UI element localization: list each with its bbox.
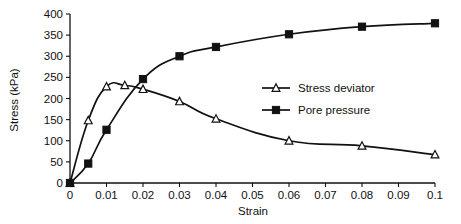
y-tick-label: 50: [50, 156, 63, 168]
marker-square: [285, 31, 292, 38]
x-tick-label: 0: [67, 189, 73, 201]
x-tick-label: 0.1: [427, 189, 443, 201]
y-tick-label: 250: [44, 71, 63, 83]
series-2: [66, 20, 438, 187]
x-tick-label: 0.01: [95, 189, 117, 201]
y-tick-group: 050100150200250300350400: [44, 8, 70, 189]
series-line: [70, 23, 435, 183]
chart-legend: Stress deviatorPore pressure: [262, 82, 375, 116]
x-axis-title: Strain: [238, 205, 268, 217]
marker-triangle: [84, 116, 92, 123]
marker-square: [358, 23, 365, 30]
y-tick-label: 300: [44, 50, 63, 62]
marker-square: [212, 43, 219, 50]
series-1: [66, 81, 439, 186]
x-tick-label: 0.08: [351, 189, 373, 201]
x-axis: 00.010.020.030.040.050.060.070.080.090.1: [67, 183, 443, 201]
x-tick-group: 00.010.020.030.040.050.060.070.080.090.1: [67, 183, 443, 201]
marker-square: [66, 179, 73, 186]
marker-square: [431, 20, 438, 27]
y-tick-label: 350: [44, 29, 63, 41]
legend-label: Stress deviator: [298, 82, 375, 94]
marker-square: [139, 75, 146, 82]
marker-square: [176, 53, 183, 60]
series-layer: [66, 20, 439, 187]
x-tick-label: 0.07: [314, 189, 336, 201]
marker-square: [85, 160, 92, 167]
x-tick-label: 0.03: [168, 189, 190, 201]
series-line: [70, 83, 435, 183]
stress-strain-chart: 050100150200250300350400 00.010.020.030.…: [0, 0, 461, 224]
y-tick-label: 0: [57, 177, 63, 189]
marker-square: [103, 126, 110, 133]
x-tick-label: 0.04: [205, 189, 228, 201]
y-tick-label: 400: [44, 8, 63, 20]
legend-marker-square: [272, 106, 279, 113]
legend-label: Pore pressure: [298, 104, 370, 116]
x-tick-label: 0.02: [132, 189, 154, 201]
legend-entry-1: Stress deviator: [262, 82, 375, 94]
y-axis-title: Stress (kPa): [8, 68, 20, 131]
y-axis: 050100150200250300350400: [44, 8, 70, 189]
chart-svg: 050100150200250300350400 00.010.020.030.…: [0, 0, 461, 224]
x-tick-label: 0.05: [241, 189, 263, 201]
legend-entry-2: Pore pressure: [262, 104, 370, 116]
x-tick-label: 0.06: [278, 189, 300, 201]
x-tick-label: 0.09: [387, 189, 409, 201]
y-tick-label: 200: [44, 93, 63, 105]
y-tick-label: 150: [44, 114, 63, 126]
y-tick-label: 100: [44, 135, 63, 147]
